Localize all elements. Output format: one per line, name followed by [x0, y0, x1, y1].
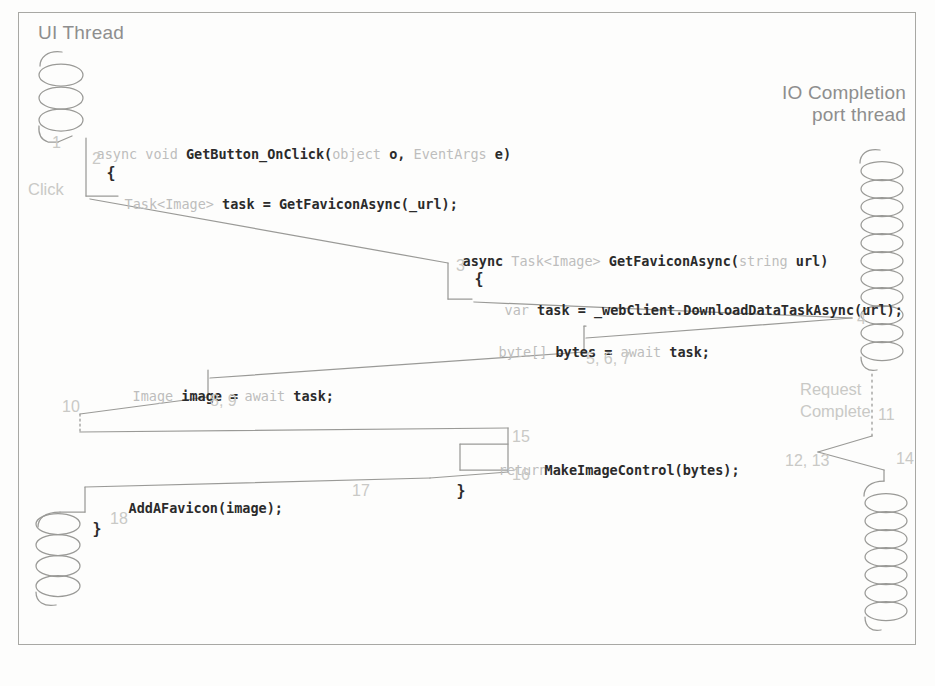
code-token-return-type: Task<Image> [511, 253, 609, 269]
step-marker-4: 4 [857, 310, 866, 328]
step-marker-14: 14 [896, 450, 914, 468]
code-token-await: await [245, 388, 294, 404]
step-marker-10: 10 [62, 398, 80, 416]
code-line-close-brace-1: } [424, 470, 466, 512]
async-flow-diagram: UI Thread IO Completion port thread asyn… [0, 0, 935, 686]
step-marker-18: 18 [110, 510, 128, 528]
step-marker-89: 8, 9 [210, 392, 237, 410]
code-line-task-getfaviconasync: Task<Image> task = GetFaviconAsync(_url)… [92, 184, 458, 225]
code-token-type: object [332, 146, 389, 162]
code-token-call: MakeImageControl(bytes); [545, 462, 740, 478]
brace-glyph: { [107, 164, 116, 182]
code-token-param2: e) [495, 146, 511, 162]
code-token-expr: task = GetFaviconAsync(_url); [222, 196, 458, 212]
code-line-var-task-download: var task = _webClient.DownloadDataTaskAs… [472, 290, 903, 331]
io-thread-title-line2: port thread [746, 104, 906, 126]
io-thread-title-line1: IO Completion [746, 82, 906, 104]
step-marker-1213: 12, 13 [785, 452, 829, 470]
request-complete-line1: Request [800, 380, 861, 399]
code-line-close-brace-2: } [60, 508, 102, 550]
ui-thread-title: UI Thread [38, 22, 124, 44]
brace-glyph: } [93, 520, 102, 538]
step-marker-3: 3 [456, 257, 465, 275]
request-complete-line2: Complete [800, 402, 871, 421]
code-line-getbutton-onclick: async void GetButton_OnClick(object o, E… [64, 134, 511, 175]
step-marker-17: 17 [352, 482, 370, 500]
code-token-var: var [505, 302, 538, 318]
code-token-call: AddAFavicon(image); [129, 500, 283, 516]
step-marker-2: 2 [92, 150, 101, 168]
code-token-expr: task = _webClient.DownloadDataTaskAsync(… [537, 302, 903, 318]
code-token-param-type: string [739, 253, 796, 269]
code-token-identifier: GetButton_OnClick( [186, 146, 332, 162]
step-marker-16: 16 [512, 466, 530, 484]
code-token-task: task; [669, 344, 710, 360]
code-line-return-makeimagecontrol: MakeImageControl(bytes); [512, 450, 740, 491]
code-token-param-name: url) [796, 253, 829, 269]
code-token-task: task; [293, 388, 334, 404]
code-token-type: Image [133, 388, 182, 404]
brace-glyph: } [457, 482, 466, 500]
code-token-method-name: GetFaviconAsync( [609, 253, 739, 269]
code-token-type: byte[] [499, 344, 556, 360]
step-marker-11: 11 [878, 406, 895, 424]
code-token-type2: EventArgs [414, 146, 495, 162]
code-line-getfaviconasync-signature: async Task<Image> GetFaviconAsync(string… [430, 241, 828, 282]
step-marker-567: 5, 6, 7 [586, 350, 630, 368]
step-marker-15: 15 [512, 428, 530, 446]
step-marker-1: 1 [52, 134, 61, 152]
click-annotation: Click [28, 180, 64, 199]
code-token-param: o, [389, 146, 413, 162]
code-token-type: Task<Image> [125, 196, 223, 212]
brace-glyph: { [475, 270, 484, 288]
